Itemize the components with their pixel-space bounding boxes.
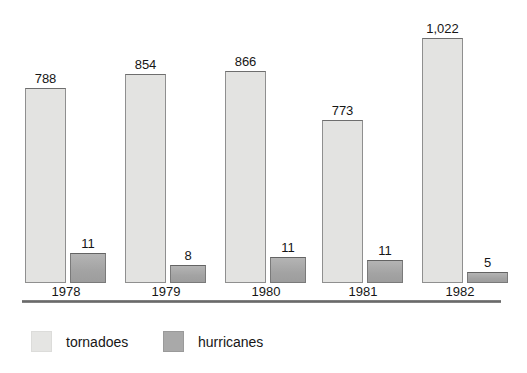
bar-tornadoes-1978[interactable]	[25, 88, 66, 283]
bar-group-1979: 854 8	[125, 21, 207, 283]
bar-chart: 788 11 1978 854 8 1979 866	[0, 0, 527, 373]
bar-group-1981: 773 11	[322, 21, 404, 283]
legend-item-tornadoes[interactable]: tornadoes	[31, 331, 128, 352]
axis-label-1978: 1978	[25, 285, 107, 299]
bar-hurricanes-1980[interactable]	[270, 257, 306, 283]
bar-slot-tornadoes-1981: 773	[322, 120, 363, 283]
legend-label-tornadoes: tornadoes	[66, 334, 128, 350]
tornadoes-swatch-icon	[31, 331, 52, 352]
bar-slot-tornadoes-1982: 1,022	[422, 38, 463, 283]
bar-slot-hurricanes-1982: 5	[467, 272, 508, 283]
value-label-tornadoes-1982: 1,022	[426, 21, 459, 36]
bar-hurricanes-1981[interactable]	[367, 260, 403, 283]
value-label-hurricanes-1981: 11	[378, 243, 392, 258]
bar-slot-tornadoes-1980: 866	[225, 71, 266, 283]
value-label-tornadoes-1978: 788	[35, 71, 57, 86]
axis-label-1982: 1982	[419, 285, 501, 299]
value-label-hurricanes-1980: 11	[281, 240, 295, 255]
bar-tornadoes-1982[interactable]	[422, 38, 463, 283]
axis-label-1979: 1979	[125, 285, 207, 299]
bar-group-1980: 866 11	[225, 21, 307, 283]
bar-group-1982: 1,022 5	[422, 21, 508, 283]
bar-slot-hurricanes-1980: 11	[270, 257, 306, 283]
bar-slot-tornadoes-1978: 788	[25, 88, 66, 283]
plot-area: 788 11 1978 854 8 1979 866	[0, 0, 527, 300]
legend: tornadoes hurricanes	[0, 322, 527, 362]
bar-slot-hurricanes-1978: 11	[70, 253, 106, 283]
bar-tornadoes-1979[interactable]	[125, 74, 166, 283]
value-label-hurricanes-1982: 5	[484, 255, 491, 270]
hurricanes-swatch-icon	[163, 331, 184, 352]
legend-label-hurricanes: hurricanes	[198, 334, 263, 350]
bar-slot-hurricanes-1979: 8	[170, 265, 206, 283]
value-label-tornadoes-1981: 773	[332, 103, 354, 118]
bar-group-1978: 788 11	[25, 21, 107, 283]
bar-hurricanes-1979[interactable]	[170, 265, 206, 283]
axis-label-1981: 1981	[322, 285, 404, 299]
bar-hurricanes-1982[interactable]	[467, 272, 508, 283]
x-axis-baseline	[22, 300, 501, 303]
bar-slot-tornadoes-1979: 854	[125, 74, 166, 283]
bar-hurricanes-1978[interactable]	[70, 253, 106, 283]
value-label-hurricanes-1978: 11	[81, 236, 95, 251]
legend-item-hurricanes[interactable]: hurricanes	[163, 331, 263, 352]
value-label-tornadoes-1979: 854	[135, 57, 157, 72]
axis-label-1980: 1980	[225, 285, 307, 299]
bar-tornadoes-1980[interactable]	[225, 71, 266, 283]
value-label-tornadoes-1980: 866	[235, 54, 257, 69]
value-label-hurricanes-1979: 8	[184, 248, 191, 263]
bar-slot-hurricanes-1981: 11	[367, 260, 403, 283]
bar-tornadoes-1981[interactable]	[322, 120, 363, 283]
